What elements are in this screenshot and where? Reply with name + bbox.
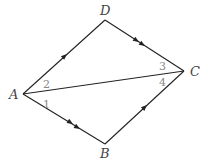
geometry-diagram: A B C D 1 2 3 4 bbox=[0, 0, 208, 162]
angle-label-1: 1 bbox=[43, 98, 50, 111]
arrow-icon bbox=[133, 37, 141, 44]
arrow-icon bbox=[139, 41, 147, 48]
vertex-label-D: D bbox=[99, 3, 111, 18]
angle-label-2: 2 bbox=[43, 78, 50, 91]
angle-label-4: 4 bbox=[159, 76, 166, 89]
vertex-label-C: C bbox=[190, 64, 200, 79]
arrow-icon bbox=[74, 124, 82, 131]
vertex-label-A: A bbox=[8, 87, 18, 102]
vertex-label-B: B bbox=[99, 146, 110, 161]
segment-AB bbox=[23, 94, 105, 144]
angle-label-3: 3 bbox=[159, 60, 166, 73]
